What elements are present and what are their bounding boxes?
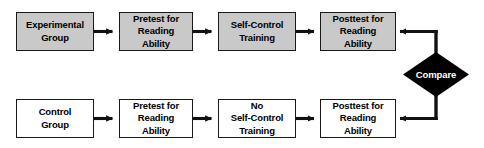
node-control-group[interactable]: Control Group <box>16 99 94 138</box>
node-label-pretest-experimental: Pretest for Reading Ability <box>122 13 190 50</box>
node-experimental-group[interactable]: Experimental Group <box>16 12 94 51</box>
node-label-control-group: Control Group <box>19 106 91 130</box>
node-self-control-training[interactable]: Self-Control Training <box>218 12 296 51</box>
node-no-self-control-training[interactable]: No Self-Control Training <box>218 99 296 138</box>
node-label-posttest-experimental: Posttest for Reading Ability <box>323 13 393 50</box>
node-label-no-self-control-training: No Self-Control Training <box>221 100 293 137</box>
node-label-experimental-group: Experimental Group <box>19 19 91 43</box>
compare-decision-diamond <box>403 52 469 97</box>
node-label-pretest-control: Pretest for Reading Ability <box>122 100 190 137</box>
node-posttest-control[interactable]: Posttest for Reading Ability <box>320 99 396 138</box>
node-label-self-control-training: Self-Control Training <box>221 19 293 43</box>
node-pretest-experimental[interactable]: Pretest for Reading Ability <box>119 12 193 51</box>
node-pretest-control[interactable]: Pretest for Reading Ability <box>119 99 193 138</box>
flowchart-diagram: Experimental Group Pretest for Reading A… <box>0 0 484 148</box>
node-label-posttest-control: Posttest for Reading Ability <box>323 100 393 137</box>
node-posttest-experimental[interactable]: Posttest for Reading Ability <box>320 12 396 51</box>
